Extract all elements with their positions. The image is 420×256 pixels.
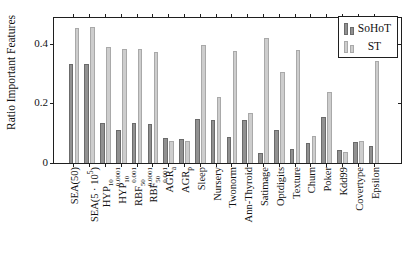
x-label-Sleep: Sleep [195, 167, 209, 255]
bar-sohot-RBF^50_0.001 [148, 124, 153, 163]
x-label-SEA(50): SEA(50) [68, 167, 82, 255]
x-tick-top [263, 14, 264, 17]
bar-st-HYP^10_0.001 [122, 49, 127, 163]
bar-sohot-Optdigits [274, 130, 279, 163]
bar-sohot-Sleep [195, 119, 200, 163]
x-label-Nursery: Nursery [211, 167, 225, 255]
bar-sohot-AGR_p [179, 139, 184, 163]
bar-sohot-HYP^10_0.0001 [100, 123, 105, 163]
sohot-bar-swatch-icon [344, 22, 354, 35]
x-tick-top [152, 14, 153, 17]
bar-sohot-Epsilon [369, 146, 374, 163]
y-tick-right [398, 163, 401, 164]
y-tick-label: 0.2 [18, 96, 48, 109]
bar-st-Epsilon [375, 61, 380, 163]
legend: SoHoT ST [338, 16, 398, 58]
bar-sohot-Satimage [258, 153, 263, 163]
legend-entry-sohot: SoHoT [344, 20, 391, 36]
y-tick-left [50, 103, 53, 104]
y-tick-left [50, 44, 53, 45]
bar-sohot-SEA(5·10^5) [84, 64, 89, 163]
x-tick-top [279, 14, 280, 17]
x-label-Satimage: Satimage [258, 167, 272, 255]
x-tick-top [184, 14, 185, 17]
bar-st-Churn [312, 136, 317, 163]
x-tick-top [168, 14, 169, 17]
x-label-Texture: Texture [290, 167, 304, 255]
y-axis-label: Ratio Important Features [5, 0, 20, 153]
bar-sohot-Twonorm [227, 137, 232, 163]
x-label-AGR_p: AGRp [179, 167, 193, 255]
bar-st-SEA(5·10^5) [90, 27, 95, 163]
bar-sohot-Kdd99 [337, 150, 342, 163]
bar-sohot-Texture [290, 149, 295, 163]
y-tick-left [50, 163, 53, 164]
bar-sohot-Poker [321, 117, 326, 163]
bar-st-Poker [327, 92, 332, 163]
x-label-SEA(5·10^5): SEA(5 · 105) [84, 167, 98, 255]
bar-st-HYP^10_0.0001 [106, 47, 111, 163]
bar-sohot-HYP^10_0.001 [116, 130, 121, 163]
bar-sohot-SEA(50) [69, 64, 74, 163]
bar-st-AGR_p [185, 141, 190, 163]
x-tick-top [121, 14, 122, 17]
x-label-AGR_a: AGRa [163, 167, 177, 255]
x-tick-top [247, 14, 248, 17]
x-tick-top [326, 14, 327, 17]
y-tick-label: 0.4 [18, 37, 48, 50]
bar-sohot-AGR_a [163, 138, 168, 163]
x-tick-top [216, 14, 217, 17]
x-label-Kdd99: Kdd99 [337, 167, 351, 255]
bar-st-AGR_a [169, 141, 174, 163]
x-tick-top [89, 14, 90, 17]
x-tick-top [73, 14, 74, 17]
x-label-RBF^50_0.0001: RBF500.0001 [132, 167, 146, 255]
bar-st-SEA(50) [75, 28, 80, 163]
y-tick-right [398, 44, 401, 45]
bar-st-RBF^50_0.001 [154, 52, 159, 163]
x-tick-top [200, 14, 201, 17]
legend-label-sohot: SoHoT [358, 21, 391, 35]
bar-chart-figure: Ratio Important Features SoHoT ST 00.20.… [0, 0, 420, 256]
x-label-Ann-Thyroid: Ann-Thyroid [242, 167, 256, 255]
y-tick-right [398, 103, 401, 104]
y-tick-label: 0 [18, 156, 48, 169]
x-label-Epsilon: Epsilon [369, 167, 383, 255]
x-label-Twonorm: Twonorm [226, 167, 240, 255]
bar-st-Optdigits [280, 72, 285, 163]
x-label-Churn: Churn [305, 167, 319, 255]
bar-sohot-Churn [306, 143, 311, 163]
bar-st-Texture [296, 50, 301, 163]
bar-sohot-Nursery [211, 120, 216, 163]
x-tick-top [231, 14, 232, 17]
x-label-HYP^10_0.001: HYP100.001 [116, 167, 130, 255]
bar-st-Nursery [217, 97, 222, 163]
x-tick-top [310, 14, 311, 17]
bar-st-Twonorm [233, 51, 238, 163]
bar-sohot-Covertype [353, 142, 358, 163]
x-tick-top [295, 14, 296, 17]
bar-st-Ann-Thyroid [248, 113, 253, 163]
x-label-Optdigits: Optdigits [274, 167, 288, 255]
bar-st-Satimage [264, 38, 269, 163]
x-label-Poker: Poker [321, 167, 335, 255]
st-bar-swatch-icon [344, 40, 354, 53]
x-tick-top [105, 14, 106, 17]
x-tick-top [137, 14, 138, 17]
bar-st-Sleep [201, 45, 206, 163]
bar-st-Kdd99 [343, 152, 348, 163]
bar-st-Covertype [359, 141, 364, 163]
legend-entry-st: ST [344, 38, 391, 54]
bar-sohot-Ann-Thyroid [242, 120, 247, 163]
legend-label-st: ST [358, 39, 391, 53]
x-label-Covertype: Covertype [353, 167, 367, 255]
bar-st-RBF^50_0.0001 [138, 49, 143, 163]
bar-sohot-RBF^50_0.0001 [132, 123, 137, 163]
x-label-HYP^10_0.0001: HYP100.0001 [100, 167, 114, 255]
x-label-RBF^50_0.001: RBF500.001 [147, 167, 161, 255]
